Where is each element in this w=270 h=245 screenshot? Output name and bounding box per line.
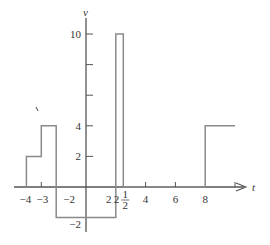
y-tick-label: 10: [70, 28, 82, 40]
data-series: [26, 34, 235, 218]
x-tick-label: 4: [143, 193, 149, 205]
axes: tv: [14, 6, 256, 232]
x-tick-label: −2: [63, 193, 75, 205]
step-function-line: [26, 34, 235, 218]
x-tick-label: −4: [20, 193, 32, 205]
stray-mark: [36, 107, 38, 111]
y-axis-label: v: [83, 6, 88, 18]
x-axis-label: t: [252, 181, 256, 193]
step-function-chart: tv −4−3−222124681042−2: [0, 0, 270, 245]
x-tick-label-denominator: 2: [123, 199, 129, 211]
x-tick-label: −3: [36, 193, 48, 205]
x-tick-label: 2: [106, 193, 112, 205]
x-tick-label: 8: [202, 193, 208, 205]
y-tick-label: 2: [76, 150, 82, 162]
y-tick-label: 4: [76, 120, 82, 132]
tick-labels: −4−3−222124681042−2: [20, 28, 209, 230]
x-tick-label: 6: [173, 193, 179, 205]
x-tick-label: 2: [114, 193, 120, 205]
y-tick-label: −2: [69, 218, 81, 230]
